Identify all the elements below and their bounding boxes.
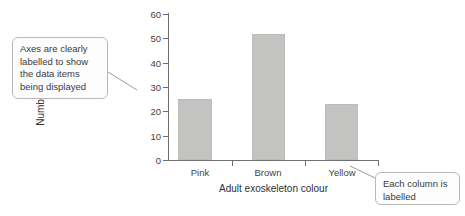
x-tick-3 bbox=[378, 161, 379, 166]
callout-axes-labelled: Axes are clearly labelled to show the da… bbox=[12, 37, 108, 99]
category-label-brown: Brown bbox=[236, 167, 300, 178]
bar-yellow bbox=[325, 104, 358, 160]
x-tick-1 bbox=[232, 161, 233, 166]
y-axis-line bbox=[168, 13, 169, 161]
y-tick-label-60: 60 bbox=[139, 9, 161, 20]
y-tick-label-10: 10 bbox=[139, 131, 161, 142]
leader-line-left bbox=[108, 72, 137, 90]
y-tick-20 bbox=[163, 111, 168, 112]
y-tick-label-0: 0 bbox=[139, 155, 161, 166]
y-tick-40 bbox=[163, 63, 168, 64]
y-tick-label-20: 20 bbox=[139, 106, 161, 117]
category-label-yellow: Yellow bbox=[310, 167, 374, 178]
x-tick-2 bbox=[305, 161, 306, 166]
y-tick-10 bbox=[163, 136, 168, 137]
bar-brown bbox=[252, 34, 285, 161]
y-tick-label-50: 50 bbox=[139, 33, 161, 44]
y-tick-label-40: 40 bbox=[139, 58, 161, 69]
y-tick-30 bbox=[163, 87, 168, 88]
x-axis-title: Adult exoskeleton colour bbox=[168, 183, 379, 194]
category-label-pink: Pink bbox=[168, 167, 232, 178]
y-tick-60 bbox=[163, 14, 168, 15]
x-axis-line bbox=[168, 160, 379, 161]
y-tick-0 bbox=[163, 160, 168, 161]
bar-pink bbox=[178, 99, 212, 160]
y-tick-label-30: 30 bbox=[139, 82, 161, 93]
locust-bar-chart-figure: 0 10 20 30 40 50 60 Pink Brown Yellow Ad… bbox=[0, 0, 465, 216]
callout-column-labelled: Each column is labelled bbox=[375, 172, 460, 205]
y-tick-50 bbox=[163, 38, 168, 39]
